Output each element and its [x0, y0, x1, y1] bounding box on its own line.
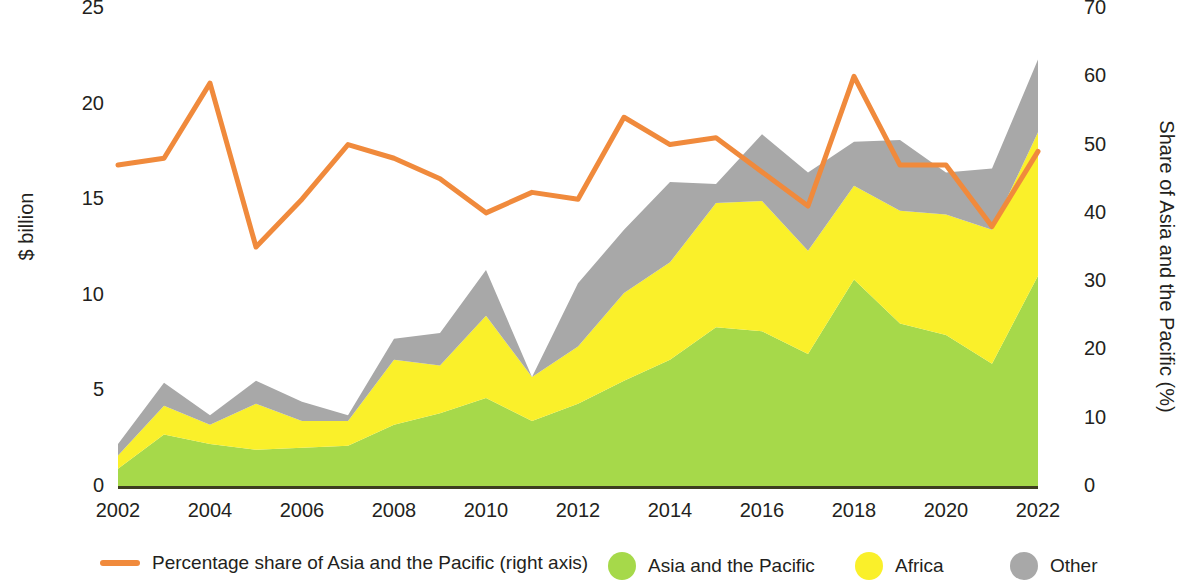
x-axis-tick-label: 2008	[359, 500, 429, 520]
x-axis-tick-label: 2016	[727, 500, 797, 520]
y-axis-right-tick-label: 30	[1084, 270, 1130, 290]
legend-label: Percentage share of Asia and the Pacific…	[152, 552, 588, 574]
legend-label: Other	[1050, 555, 1098, 577]
x-axis-tick-label: 2014	[635, 500, 705, 520]
y-axis-left-tick-label: 5	[58, 379, 104, 399]
chart-svg	[118, 8, 1038, 487]
legend-label: Asia and the Pacific	[648, 555, 815, 577]
x-axis-tick-label: 2002	[83, 500, 153, 520]
y-axis-left-tick-label: 10	[58, 284, 104, 304]
legend-item[interactable]: Asia and the Pacific	[608, 552, 815, 580]
chart-legend: Percentage share of Asia and the Pacific…	[0, 548, 1161, 586]
legend-label: Africa	[895, 555, 944, 577]
legend-dot-swatch-icon	[1010, 552, 1038, 580]
x-axis-tick-label: 2006	[267, 500, 337, 520]
x-axis-line	[118, 486, 1038, 489]
legend-dot-swatch-icon	[855, 552, 883, 580]
y-axis-left-tick-label: 0	[58, 475, 104, 495]
legend-item[interactable]: Other	[1010, 552, 1098, 580]
y-axis-right-title: Share of Asia and the Pacific (%)	[1155, 117, 1178, 417]
y-axis-left-tick-label: 20	[58, 93, 104, 113]
y-axis-right-tick-label: 20	[1084, 338, 1130, 358]
y-axis-right-tick-label: 0	[1084, 475, 1130, 495]
x-axis-tick-label: 2018	[819, 500, 889, 520]
legend-item[interactable]: Africa	[855, 552, 944, 580]
y-axis-right-tick-label: 60	[1084, 65, 1130, 85]
y-axis-right-tick-label: 10	[1084, 407, 1130, 427]
y-axis-left-title: $ billion	[15, 167, 38, 287]
x-axis-tick-label: 2010	[451, 500, 521, 520]
y-axis-right-tick-label: 70	[1084, 0, 1130, 17]
legend-dot-swatch-icon	[608, 552, 636, 580]
y-axis-right-tick-label: 40	[1084, 202, 1130, 222]
legend-item[interactable]: Percentage share of Asia and the Pacific…	[100, 552, 588, 574]
plot-area	[118, 8, 1038, 487]
y-axis-right-tick-label: 50	[1084, 134, 1130, 154]
x-axis-tick-label: 2012	[543, 500, 613, 520]
x-axis-tick-label: 2020	[911, 500, 981, 520]
y-axis-left-tick-label: 25	[58, 0, 104, 17]
legend-line-swatch-icon	[100, 560, 140, 566]
x-axis-tick-label: 2022	[1003, 500, 1073, 520]
x-axis-tick-label: 2004	[175, 500, 245, 520]
y-axis-left-tick-label: 15	[58, 188, 104, 208]
